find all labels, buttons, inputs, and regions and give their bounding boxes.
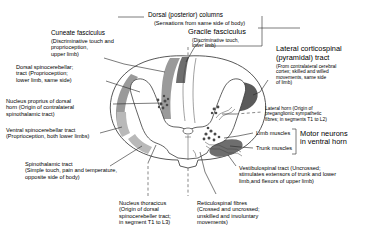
label-gracile-fasciculus-title: Gracile fasciculus <box>188 28 246 36</box>
label-dorsal-columns-title: Dorsal (posterior) columns <box>148 11 223 18</box>
label-dorsal-spinocerebellar-tract: Dorsal spinocerebellar; tract (Proprioce… <box>16 64 73 83</box>
label-reticulospinal-fibres: Reticulospinal fibres (Crossed and uncro… <box>197 200 260 225</box>
label-lateral-corticospinal-sub: (From contralateral cerebral cortex; ski… <box>276 64 336 86</box>
label-dorsal-columns-sub: (Sensations from same side of body) <box>154 20 245 26</box>
diagram-canvas <box>0 0 377 245</box>
label-cuneate-fasciculus-sub: (Discriminative touch and proprioception… <box>51 38 114 57</box>
label-trunk-muscles: Trunk muscles <box>256 145 292 151</box>
label-gracile-fasciculus-sub: (Discriminative touch, lower limb) <box>192 38 239 49</box>
label-motor-neurons: Motor neurons in ventral horn <box>300 130 348 147</box>
label-nucleus-thoracicus: Nucleus thoracicus (Origin of dorsal spi… <box>119 200 171 225</box>
label-ventral-spinocerebellar-tract: Ventral spinocerebellar tract (Proprioce… <box>6 127 89 140</box>
label-cuneate-fasciculus-title: Cuneate fasciculus <box>51 29 105 36</box>
label-spinothalamic-tract: Spinothalamic tract (Simple touch, pain … <box>25 161 117 180</box>
label-lateral-horn: Lateral horn (Origin of preganglionic sy… <box>265 106 327 122</box>
spinal-cord-diagram-figure: Dorsal (posterior) columns (Sensations f… <box>0 0 377 245</box>
central-canal <box>183 128 193 134</box>
label-limb-muscles: Limb muscles <box>256 130 290 136</box>
motor-neurons-bracket <box>292 129 296 154</box>
label-lateral-corticospinal-title2: (pyramidal) tract <box>276 54 329 62</box>
label-vestibulospinal-tract: Vestibulospinal tract (Uncrossed; stimul… <box>239 165 336 184</box>
label-nucleus-proprius: Nucleus proprius of dorsal horn (Origin … <box>6 98 74 117</box>
